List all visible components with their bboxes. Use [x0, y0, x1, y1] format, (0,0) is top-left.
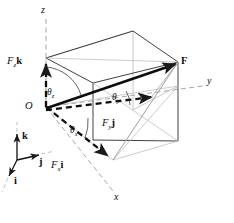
resultant-label-F: F — [181, 56, 187, 67]
unit-vector-j-arrow — [17, 155, 39, 160]
angle-arc-theta-y — [126, 91, 130, 105]
angle-label-theta-x: θx — [70, 126, 78, 137]
component-label-Fy-unit: j — [112, 117, 116, 128]
box-top-face — [46, 31, 178, 83]
angle-label-theta-z-sub: z — [52, 92, 55, 99]
angle-label-theta-y: θy — [112, 93, 120, 104]
unit-vector-label-k: k — [22, 131, 28, 142]
resultant-helper-lines — [113, 62, 178, 160]
diagonal-right-face-2 — [93, 83, 178, 141]
angle-label-theta-z: θz — [47, 88, 54, 99]
helper-F-to-Fx-tip — [113, 62, 178, 160]
unit-vector-label-i: i — [14, 176, 17, 187]
angle-label-theta-y-sub: y — [117, 97, 120, 104]
axis-label-y: y — [207, 76, 211, 86]
force-components-figure: z y x O F Fzk Fyj Fxi θz θx θy k j i — [0, 0, 234, 223]
triad-guide-i — [2, 178, 8, 192]
triad-guide-j — [41, 151, 55, 154]
component-label-Fx: Fxi — [51, 160, 63, 173]
axis-lines — [46, 19, 203, 191]
box-edge-bottom-front — [93, 140, 178, 141]
box-construction-lines — [46, 58, 178, 160]
angle-label-theta-x-sub: x — [75, 130, 78, 137]
figure-canvas — [0, 0, 234, 223]
edge-bottom-front-right — [113, 141, 178, 160]
angle-arc-theta-x — [85, 118, 88, 138]
axis-label-x: x — [114, 192, 118, 202]
component-label-Fz-unit: k — [16, 55, 22, 66]
y-axis-line — [46, 86, 203, 107]
component-label-Fx-unit: i — [61, 159, 64, 170]
unit-vector-label-j: j — [39, 157, 43, 168]
component-label-Fy: Fyj — [102, 118, 115, 131]
axis-label-z: z — [41, 5, 45, 15]
component-label-Fz: Fzk — [7, 56, 22, 69]
diagonal-top-face — [46, 58, 178, 62]
unit-vector-i-arrow — [9, 160, 17, 176]
origin-label: O — [25, 101, 33, 112]
